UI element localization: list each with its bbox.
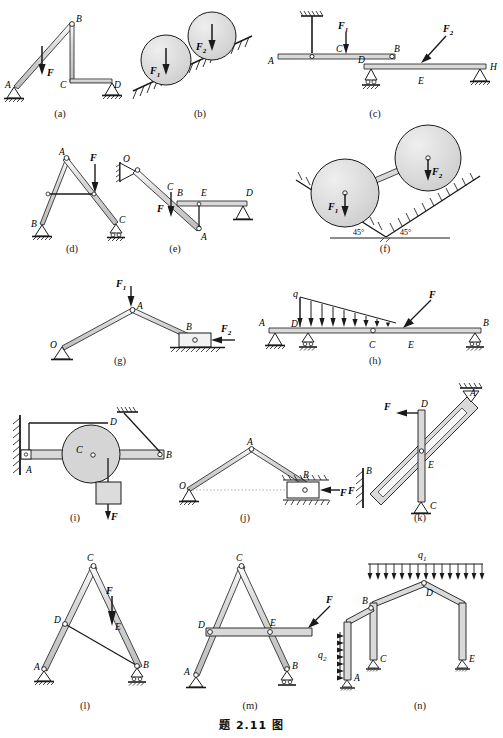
pin-joint-A — [24, 453, 27, 456]
label-A: A — [25, 465, 32, 475]
pin-joint-B — [303, 488, 308, 493]
label-D: D — [109, 417, 117, 427]
subfigure-caption-b: (b) — [180, 108, 220, 119]
label-O: O — [123, 154, 130, 164]
force-arrow-F — [92, 164, 99, 193]
label-F: F — [110, 511, 118, 522]
pin-joint-O — [135, 168, 140, 173]
label-C: C — [380, 654, 387, 664]
force-arrow-F1 — [128, 286, 135, 307]
label-A: A — [469, 388, 476, 398]
force-arrow-F2 — [211, 337, 235, 344]
label-B: B — [76, 14, 82, 24]
subfigure-n: q1 — [340, 540, 503, 690]
pin-joint-C — [239, 564, 244, 569]
label-F: F — [105, 585, 113, 596]
label-angle-left: 45° — [353, 228, 364, 237]
pin-joint-E — [197, 202, 201, 206]
label-E: E — [200, 188, 207, 198]
tie-rod-DB — [124, 413, 160, 452]
label-A: A — [267, 56, 274, 66]
pin-joint-tie-left — [46, 192, 50, 196]
label-B: B — [292, 661, 298, 671]
label-q1: q1 — [418, 549, 427, 563]
subfigure-a: F A B C D — [0, 8, 125, 103]
subfigure-caption-c: (c) — [355, 108, 395, 119]
label-A: A — [258, 318, 265, 328]
member-OA — [62, 308, 134, 350]
support-roller-D — [362, 69, 380, 89]
pin-joint-D — [208, 630, 213, 635]
support-roller-B — [128, 668, 146, 686]
pin-joint-B — [390, 54, 394, 58]
label-F: F — [46, 67, 54, 78]
member-DE-beam — [206, 628, 312, 636]
column-E — [459, 603, 466, 660]
beam-AB — [278, 54, 395, 59]
pin-joint-B — [158, 452, 162, 456]
member-OA — [187, 447, 253, 492]
pin-joint-D — [63, 622, 68, 627]
pin-joint-B — [70, 22, 75, 27]
label-D: D — [245, 188, 253, 198]
label-B: B — [31, 219, 37, 229]
label-O: O — [50, 340, 57, 350]
roof-rafter-left — [372, 581, 426, 607]
pin-joint-A — [64, 156, 69, 161]
pin-joint-hanger — [310, 55, 314, 59]
subfigure-e: F O A B C D E — [115, 148, 260, 243]
hanging-weight — [96, 482, 121, 504]
subfigure-h: q — [253, 280, 498, 360]
label-B: B — [177, 188, 183, 198]
figure-plate: F A B C D (a) — [0, 0, 503, 738]
wall-support-B — [356, 468, 363, 508]
label-F1: F1 — [337, 20, 348, 34]
subfigure-caption-g: (g) — [100, 355, 140, 366]
label-A: A — [200, 232, 207, 242]
label-H: H — [489, 62, 498, 72]
support-roller-A — [340, 680, 355, 691]
force-arrow-F-top — [396, 410, 418, 417]
label-B: B — [362, 596, 368, 606]
slider-pin-E — [419, 449, 423, 453]
label-B: B — [483, 318, 489, 328]
support-pin-D — [233, 206, 253, 220]
pin-joint-tie-right — [92, 192, 96, 196]
label-C: C — [236, 553, 243, 563]
pulley-center-pin — [91, 453, 95, 457]
support-roller-D — [299, 333, 317, 351]
label-F2: F2 — [442, 23, 454, 37]
label-C: C — [167, 182, 174, 192]
subfigure-caption-d: (d) — [52, 243, 92, 254]
subfigure-i: F A B C D — [4, 390, 184, 520]
label-F: F — [428, 289, 436, 300]
label-A: A — [353, 673, 360, 683]
force-arrow-F1 — [343, 32, 349, 54]
label-q: q — [293, 288, 298, 299]
support-pin-H — [470, 69, 490, 85]
label-C: C — [430, 501, 437, 511]
subfigure-m: F A B C D E — [180, 548, 340, 688]
label-D: D — [290, 319, 298, 329]
wall-support-A — [13, 415, 20, 475]
subfigure-caption-i: (i) — [55, 512, 95, 523]
label-C: C — [76, 444, 83, 455]
pin-joint-A — [130, 308, 135, 313]
label-C: C — [369, 340, 376, 350]
member-DC — [418, 410, 425, 502]
subfigure-caption-a: (a) — [40, 108, 80, 119]
column-A — [344, 622, 351, 680]
subfigure-caption-f: (f) — [365, 243, 405, 254]
label-B: B — [366, 466, 372, 476]
label-D: D — [357, 55, 365, 65]
label-D: D — [425, 588, 433, 598]
subfigure-caption-m: (m) — [230, 700, 270, 711]
subfigure-caption-j: (j) — [225, 512, 265, 523]
label-D: D — [53, 615, 61, 625]
pin-joint-D — [422, 581, 427, 586]
member-OA — [133, 169, 201, 231]
label-A: A — [4, 80, 11, 90]
label-F-top: F — [383, 401, 391, 412]
label-C: C — [336, 44, 343, 54]
label-F-left: F — [347, 485, 355, 496]
